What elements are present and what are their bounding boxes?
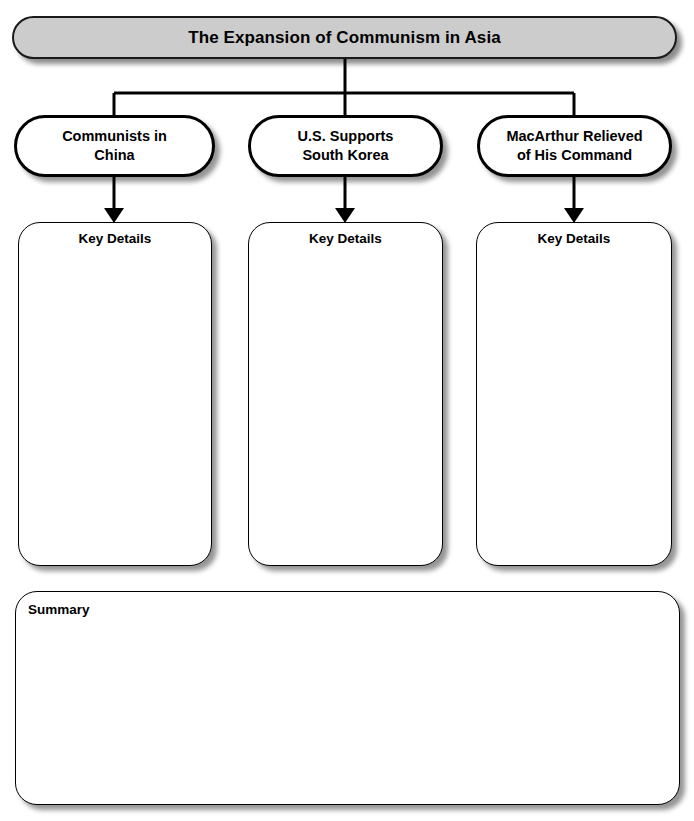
summary-box-label: Summary	[28, 602, 679, 617]
topic-box-2-line1: U.S. Supports	[298, 128, 394, 144]
topic-box-1-line1: Communists in	[62, 128, 167, 144]
key-details-box-1[interactable]: Key Details	[18, 222, 212, 566]
key-details-box-1-label: Key Details	[19, 231, 211, 246]
topic-box-1-line2: China	[94, 147, 134, 163]
topic-box-1[interactable]: Communists in China	[14, 115, 215, 177]
topic-box-3-line1: MacArthur Relieved	[506, 128, 642, 144]
topic-box-3[interactable]: MacArthur Relieved of His Command	[477, 115, 672, 177]
organizer-title-banner: The Expansion of Communism in Asia	[12, 16, 677, 59]
key-details-box-3-label: Key Details	[477, 231, 671, 246]
page-title: The Expansion of Communism in Asia	[188, 28, 501, 48]
topic-box-2-line2: South Korea	[302, 147, 388, 163]
topic-box-2[interactable]: U.S. Supports South Korea	[248, 115, 443, 177]
key-details-box-1-content[interactable]	[19, 246, 211, 256]
key-details-box-3[interactable]: Key Details	[476, 222, 672, 566]
graphic-organizer-worksheet: The Expansion of Communism in Asia Commu…	[0, 0, 694, 821]
key-details-box-2-label: Key Details	[249, 231, 442, 246]
key-details-box-3-content[interactable]	[477, 246, 671, 256]
topic-box-1-label: Communists in China	[52, 127, 177, 164]
topic-box-3-label: MacArthur Relieved of His Command	[496, 127, 652, 164]
key-details-box-2-content[interactable]	[249, 246, 442, 256]
topic-box-3-line2: of His Command	[517, 147, 632, 163]
key-details-box-2[interactable]: Key Details	[248, 222, 443, 566]
topic-box-2-label: U.S. Supports South Korea	[288, 127, 404, 164]
summary-box[interactable]: Summary	[15, 591, 680, 805]
summary-box-content[interactable]	[16, 617, 679, 627]
